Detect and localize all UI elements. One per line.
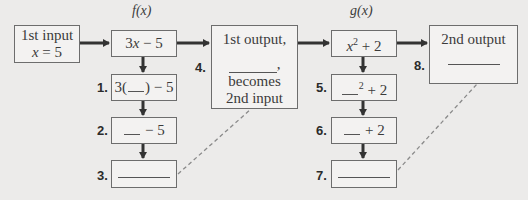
step-1-box: 3() − 5 — [111, 74, 177, 101]
answer-blank[interactable] — [448, 58, 500, 65]
first-output-label: 1st output, — [223, 31, 286, 48]
answer-blank[interactable] — [344, 124, 360, 135]
first-output-box: 1st output, , becomes 2nd input — [211, 25, 298, 109]
step-3-box — [111, 160, 177, 188]
step-7-box — [331, 160, 397, 188]
input-box: 1st input x = 5 — [14, 25, 80, 63]
second-output-label: 2nd output — [441, 31, 506, 48]
step-6-box: + 2 — [331, 117, 397, 144]
step-number-2: 2. — [97, 123, 108, 138]
input-value: x = 5 — [32, 44, 62, 61]
answer-blank[interactable] — [229, 66, 277, 73]
answer-blank[interactable] — [124, 124, 140, 135]
step-number-1: 1. — [97, 80, 108, 95]
step-number-3: 3. — [97, 168, 108, 183]
step-number-5: 5. — [316, 80, 327, 95]
g-function-label: g(x) — [350, 3, 373, 19]
step-number-7: 7. — [316, 168, 327, 183]
answer-blank[interactable] — [118, 171, 170, 178]
f-function-label: f(x) — [132, 3, 151, 19]
step-number-6: 6. — [316, 123, 327, 138]
composite-function-diagram: f(x) g(x) 1st input x = 5 3x − 5 1. 3() … — [0, 0, 528, 200]
answer-blank[interactable] — [338, 171, 390, 178]
step-5-box: 2 + 2 — [331, 74, 397, 101]
dashed-link-7-to-8 — [398, 84, 477, 170]
dashed-link-3-to-4 — [178, 109, 251, 174]
answer-blank[interactable] — [342, 84, 358, 95]
step-number-4: 4. — [195, 60, 206, 75]
g-rule-box: x2 + 2 — [331, 30, 397, 57]
step-number-8: 8. — [414, 58, 425, 73]
second-output-box: 2nd output — [429, 25, 518, 84]
step-2-box: − 5 — [111, 117, 177, 144]
f-rule-box: 3x − 5 — [111, 30, 177, 57]
answer-blank[interactable] — [128, 81, 144, 92]
input-label: 1st input — [21, 27, 73, 44]
